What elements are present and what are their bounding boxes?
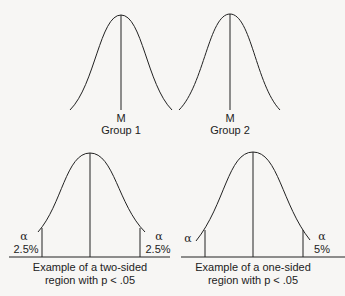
alpha-right-one-sided: α [314, 231, 330, 243]
alpha-right-two-sided: α [151, 231, 167, 243]
caption-one-sided-line1: Example of a one-sided [183, 261, 323, 273]
caption-two-sided-line1: Example of a two-sided [20, 261, 160, 273]
normal-curve-two-sided [38, 153, 145, 232]
group-2-label: Group 2 [200, 124, 260, 136]
alpha-left-one-sided: α [180, 233, 196, 245]
pct-left-two-sided: 2.5% [11, 243, 41, 255]
mean-label-group-2: M [215, 112, 245, 124]
caption-one-sided-line2: region with p < .05 [183, 274, 323, 286]
alpha-left-two-sided: α [16, 231, 32, 243]
group-1-label: Group 1 [91, 124, 151, 136]
pct-right-one-sided: 5% [309, 243, 335, 255]
caption-two-sided-line2: region with p < .05 [20, 274, 160, 286]
mean-label-group-1: M [106, 112, 136, 124]
pct-right-two-sided: 2.5% [143, 243, 173, 255]
